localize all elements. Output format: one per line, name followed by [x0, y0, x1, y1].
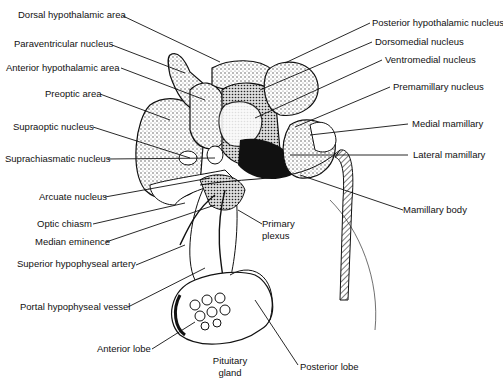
label-mamillary-body: Mamillary body	[403, 205, 467, 215]
label-ventromedial-nucleus: Ventromedial nucleus	[385, 55, 476, 65]
label-superior-hypophyseal-artery: Superior hypophyseal artery	[17, 259, 136, 269]
label-premamillary-nucleus: Premamillary nucleus	[393, 82, 484, 92]
label-paraventricular-nucleus: Paraventricular nucleus	[14, 39, 113, 49]
label-optic-chiasm: Optic chiasm	[37, 219, 92, 229]
label-posterior-lobe: Posterior lobe	[300, 362, 359, 372]
label-medial-mamillary: Medial mamillary	[412, 119, 483, 129]
label-primary-plexus: Primary plexus	[262, 218, 302, 242]
label-median-eminence: Median eminence	[35, 237, 110, 247]
label-preoptic-area: Preoptic area	[45, 89, 102, 99]
hypothalamus-pituitary-diagram: Dorsal hypothalamic area Paraventricular…	[0, 0, 503, 382]
label-portal-hypophyseal-vessel: Portal hypophyseal vessel	[20, 302, 130, 312]
label-arcuate-nucleus: Arcuate nucleus	[39, 192, 107, 202]
label-anterior-hypothalamic-area: Anterior hypothalamic area	[6, 63, 120, 73]
label-pituitary-gland: Pituitary gland	[208, 355, 252, 379]
label-posterior-hypothalamic-nucleus: Posterior hypothalamic nucleus	[372, 18, 503, 28]
label-supraoptic-nucleus: Supraoptic nucleus	[13, 122, 94, 132]
label-suprachiasmatic-nucleus: Suprachiasmatic nucleus	[5, 154, 111, 164]
label-anterior-lobe: Anterior lobe	[97, 344, 151, 354]
label-dorsomedial-nucleus: Dorsomedial nucleus	[375, 37, 464, 47]
label-lateral-mamillary: Lateral mamillary	[413, 150, 485, 160]
label-dorsal-hypothalamic-area: Dorsal hypothalamic area	[18, 10, 126, 20]
